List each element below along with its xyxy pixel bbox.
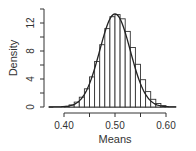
y-tick-label: 4 [25,76,36,82]
histogram-bar [84,89,89,107]
histogram-bar [110,17,115,107]
histogram-chart: 04812 0.400.500.60 Means Density [0,0,196,151]
histogram-bar [115,15,120,107]
histogram-bars [49,15,177,107]
x-tick-label: 0.50 [105,120,125,131]
x-axis: 0.400.500.60 [54,113,176,131]
y-axis: 04812 [25,9,44,110]
histogram-bar [105,29,110,107]
y-tick-label: 12 [25,17,36,29]
y-tick-label: 8 [25,48,36,54]
y-axis-label: Density [7,39,19,76]
histogram-bar [130,48,135,108]
x-axis-label: Means [98,133,132,145]
histogram-bar [100,45,105,107]
y-tick-label: 0 [25,104,36,110]
x-tick-label: 0.40 [54,120,74,131]
x-tick-label: 0.60 [156,120,176,131]
